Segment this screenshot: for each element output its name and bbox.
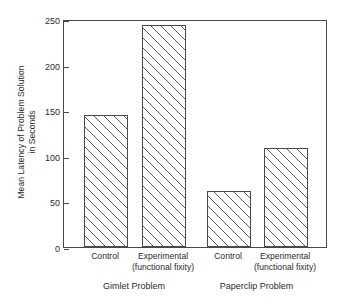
y-tick-mark (64, 249, 69, 250)
category-label-line-1: Experimental (260, 251, 310, 261)
x-axis-category-label: Experimental(functional fixity) (245, 251, 325, 272)
y-tick-label: 0 (55, 245, 60, 254)
y-tick-label: 200 (45, 62, 60, 71)
category-label-line-2: (functional fixity) (245, 262, 325, 273)
y-tick-label: 150 (45, 108, 60, 117)
y-tick-label: 50 (50, 199, 60, 208)
category-label-line-1: Experimental (138, 251, 188, 261)
category-labels-row: ControlExperimental(functional fixity)Co… (63, 251, 327, 277)
category-label-line-1: Control (214, 251, 242, 261)
bar (207, 191, 251, 247)
group-label: Gimlet Problem (74, 281, 194, 292)
y-axis-title-line-2: in Seconds (27, 110, 37, 153)
bars-container (64, 21, 326, 247)
category-label-line-1: Control (91, 251, 119, 261)
bar (84, 115, 128, 247)
group-labels-row: Gimlet ProblemPaperclip Problem (63, 281, 327, 295)
y-tick-label: 250 (45, 17, 60, 26)
plot-area: 050100150200250 (63, 20, 327, 248)
bar (264, 148, 308, 247)
y-tick-label: 100 (45, 153, 60, 162)
category-label-line-2: (functional fixity) (123, 262, 203, 273)
y-axis-title: Mean Latency of Problem Solution in Seco… (10, 12, 44, 252)
y-axis-title-line-1: Mean Latency of Problem Solution (16, 65, 26, 198)
bar (142, 25, 186, 247)
bar-chart-figure: Mean Latency of Problem Solution in Seco… (0, 0, 345, 306)
group-label: Paperclip Problem (197, 281, 317, 292)
